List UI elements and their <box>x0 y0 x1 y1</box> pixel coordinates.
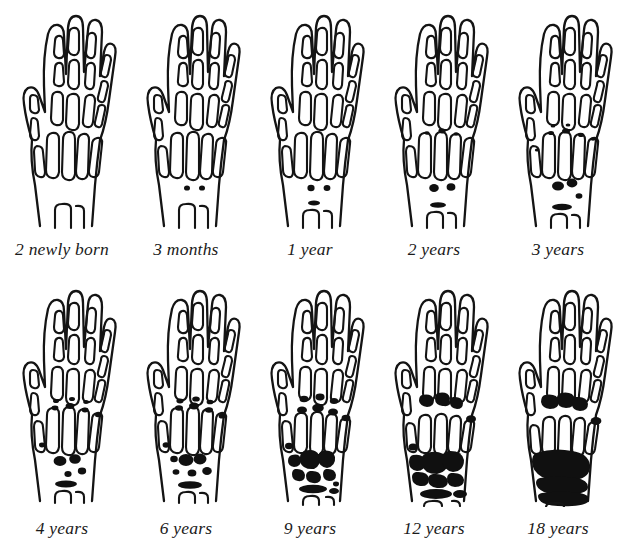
age-label-1-year: 1 year <box>248 232 372 266</box>
age-label-2-years: 2 years <box>372 232 496 266</box>
ossification-hamate <box>194 454 207 465</box>
ossification-metacarpal-head-2 <box>52 406 59 411</box>
ossification-distal-ulna <box>453 490 467 498</box>
ossification-metacarpal-head-2 <box>424 131 429 135</box>
ossification-distal-ulna <box>329 488 339 494</box>
ossification-metacarpal-head-5 <box>219 413 226 418</box>
ossification-metacarpal-head-5 <box>95 413 101 417</box>
ossification-lunate <box>188 469 197 476</box>
ossification-distal-radius <box>55 481 77 488</box>
ossification-metacarpal-head-2 <box>297 406 307 413</box>
ossification-lunate <box>64 471 71 477</box>
ossification-distal-radius <box>430 202 446 208</box>
ossification-metacarpal-head-4 <box>82 408 89 413</box>
age-label-3-years: 3 years <box>496 232 620 266</box>
age-label-6-years: 6 years <box>124 511 248 545</box>
ossification-hamate <box>567 179 578 188</box>
ossification-capitate <box>307 185 314 191</box>
ossification-phalanx-base-2 <box>176 399 183 404</box>
hand-diagram-4-years <box>0 275 124 507</box>
hand-illustration-row-bottom <box>0 275 620 507</box>
ossification-metacarpal-head-1 <box>39 443 45 448</box>
ossification-phalanx-base-3 <box>315 394 324 401</box>
hand-diagram-1-year <box>248 0 372 232</box>
age-label-row-bottom: 4 years 6 years 9 years 12 years 18 year… <box>0 511 620 545</box>
age-label-12-years: 12 years <box>372 511 496 545</box>
ossification-distal-radius <box>299 485 327 493</box>
ossification-metacarpal-head-4 <box>578 133 584 137</box>
ossification-metacarpal-head-3 <box>66 403 75 409</box>
hand-illustration-row-top <box>0 0 620 232</box>
ossification-triquetrum <box>576 193 583 199</box>
ossification-trapezium <box>170 456 178 462</box>
ossification-hamate <box>69 454 81 464</box>
ossification-phalanx-base-2 <box>300 396 309 402</box>
ossification-metacarpal-head-3 <box>562 128 570 133</box>
ossification-phalanx-base-4 <box>330 398 338 404</box>
hand-diagram-6-years <box>124 275 248 507</box>
ossification-capitate <box>429 184 439 192</box>
ossification-metacarpal-head-4 <box>453 132 458 136</box>
age-label-4-years: 4 years <box>0 511 124 545</box>
ossification-metacarpal-head-4 <box>328 408 338 415</box>
figure-row-bottom: 4 years 6 years 9 years 12 years 18 year… <box>0 275 620 545</box>
ossification-capitate <box>179 454 194 466</box>
ossification-metacarpal-head-3 <box>189 403 199 410</box>
ossification-phalanx-base-3 <box>566 124 571 127</box>
ossification-phalanx-base-2 <box>53 399 59 403</box>
ossification-trapezium <box>409 455 425 471</box>
hand-diagram-12-years <box>372 275 496 507</box>
ossification-distal-radius <box>420 489 452 499</box>
ossification-capitate <box>300 450 320 469</box>
ossification-metacarpal-head-1 <box>409 443 418 450</box>
ossification-phalanx-base-2 <box>551 125 556 128</box>
ossification-trapezium <box>288 455 301 467</box>
ossification-metacarpal-head-2 <box>548 131 554 135</box>
age-label-18-years: 18 years <box>496 511 620 545</box>
ossification-metacarpal-head-4 <box>205 407 213 413</box>
hand-ossification-figure: 2 newly born 3 months 1 year 2 years 3 y… <box>0 0 620 545</box>
ossification-phalanx-base-4 <box>207 400 214 405</box>
ossification-metacarpal-head-2 <box>175 405 183 411</box>
ossification-capitate <box>552 181 564 190</box>
hand-diagram-3-years <box>496 0 620 232</box>
ossification-metacarpal-head-1 <box>163 442 170 448</box>
ossification-metacarpal-head-5 <box>591 417 602 425</box>
ossification-metacarpal-head-1 <box>535 148 539 151</box>
ossification-metacarpal-head-3 <box>438 129 445 134</box>
ossification-metacarpal-head-5 <box>466 415 476 423</box>
hand-diagram-newborn <box>0 0 124 232</box>
ossification-distal-radius <box>308 201 320 206</box>
ossification-metacarpal-head-5 <box>590 137 595 141</box>
ossification-metacarpal-head-5 <box>342 415 351 421</box>
age-label-newborn: 2 newly born <box>0 232 124 266</box>
ossification-hamate <box>324 185 331 191</box>
ossification-distal-radius <box>552 204 572 210</box>
hand-diagram-18-years <box>496 275 620 507</box>
ossification-phalanx-base-4 <box>83 400 89 404</box>
ossification-metacarpal-head-3 <box>312 404 324 412</box>
ossification-capitate <box>184 185 190 190</box>
ossification-metacarpal-head-1 <box>285 443 293 449</box>
ossification-hamate <box>447 183 456 191</box>
ossification-capitate <box>54 456 67 466</box>
ossification-trapezoid <box>173 469 180 475</box>
ossification-triquetrum <box>202 467 212 475</box>
figure-row-top: 2 newly born 3 months 1 year 2 years 3 y… <box>0 0 620 275</box>
ossification-hamate <box>199 185 205 190</box>
hand-diagram-9-years <box>248 275 372 507</box>
ossification-distal-radius <box>178 481 202 489</box>
ossification-pisiform <box>333 482 339 487</box>
hand-diagram-3-months <box>124 0 248 232</box>
age-label-row-top: 2 newly born 3 months 1 year 2 years 3 y… <box>0 232 620 266</box>
ossification-phalanx-base-3 <box>69 397 75 401</box>
ossification-triquetrum <box>78 468 86 475</box>
ossification-phalanx-base-3 <box>192 396 200 401</box>
age-label-9-years: 9 years <box>248 511 372 545</box>
hand-diagram-2-years <box>372 0 496 232</box>
age-label-3-months: 3 months <box>124 232 248 266</box>
